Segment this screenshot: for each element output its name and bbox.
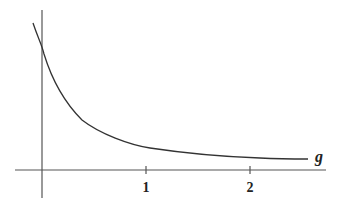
x-axis-label: g <box>314 148 323 166</box>
x-tick-label-2: 2 <box>247 180 254 195</box>
x-tick-label-1: 1 <box>143 180 150 195</box>
chart: 1 2 g <box>0 0 343 205</box>
decreasing-curve <box>33 23 308 159</box>
